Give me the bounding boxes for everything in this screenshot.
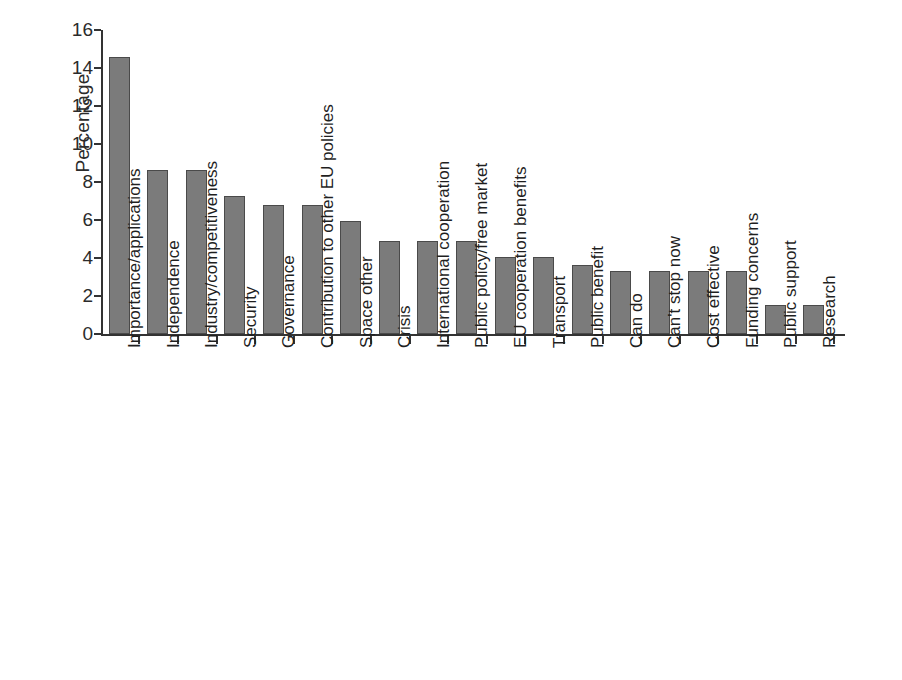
y-tick-label: 4 [53, 248, 93, 267]
y-tick-mark [94, 143, 101, 145]
x-tick-label: Contribution to other EU policies [319, 104, 336, 348]
y-tick-label: 16 [53, 20, 93, 39]
x-tick-label: Can't stop now [666, 236, 683, 348]
x-tick-label: Transport [551, 276, 568, 348]
x-tick-label: Can do [628, 293, 645, 348]
x-tick-label: EU cooperation benefits [512, 167, 529, 348]
y-tick-label: 6 [53, 210, 93, 229]
y-tick-mark [94, 257, 101, 259]
x-tick-label: Crisis [396, 306, 413, 349]
y-tick-mark [94, 295, 101, 297]
y-tick-label: 12 [53, 96, 93, 115]
x-tick-label: Importance/applications [126, 168, 143, 348]
x-tick-label: Space other [358, 256, 375, 348]
y-tick-mark [94, 29, 101, 31]
x-tick-label: Public policy/free market [473, 163, 490, 348]
y-tick-label: 0 [53, 324, 93, 343]
y-tick-mark [94, 67, 101, 69]
y-tick-mark [94, 181, 101, 183]
x-tick-label: Research [821, 275, 838, 348]
y-tick-label: 14 [53, 58, 93, 77]
x-tick-label: Independence [165, 240, 182, 348]
y-tick-label: 2 [53, 286, 93, 305]
y-tick-label: 8 [53, 172, 93, 191]
x-tick-label: International cooperation [435, 161, 452, 348]
y-tick-mark [94, 219, 101, 221]
x-tick-label: Governance [280, 255, 297, 348]
y-tick-label: 10 [53, 134, 93, 153]
x-tick-label: Public benefit [589, 246, 606, 348]
y-axis-line [101, 30, 103, 336]
bar-chart-figure: Percentage 0246810121416 Importance/appl… [0, 0, 902, 680]
y-tick-mark [94, 105, 101, 107]
x-tick-label: Security [242, 287, 259, 348]
x-tick-label: Public support [782, 240, 799, 348]
y-tick-mark [94, 333, 101, 335]
x-tick-label: Funding concerns [744, 213, 761, 348]
x-tick-label: Cost effective [705, 245, 722, 348]
x-tick-label: Industry/competitiveness [203, 161, 220, 348]
